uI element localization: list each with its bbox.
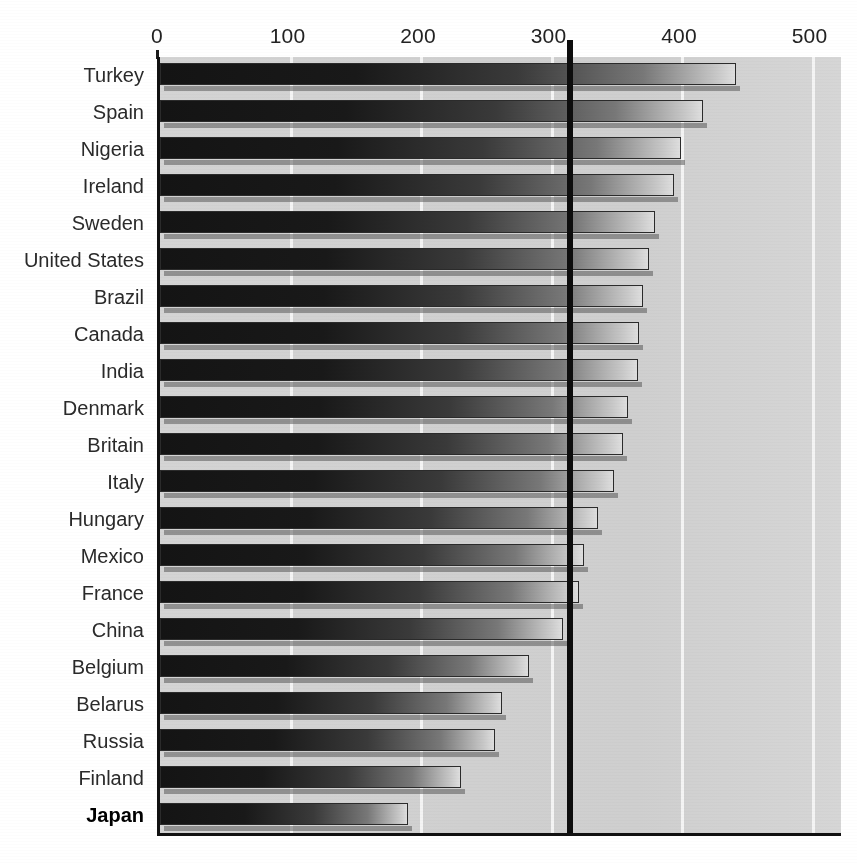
category-label-mexico: Mexico xyxy=(4,545,144,567)
x-tick-label-300: 300 xyxy=(531,24,567,48)
bar-chart: 0100200300400500 TurkeySpainNigeriaIrela… xyxy=(0,0,857,863)
bar-shadow xyxy=(164,567,588,572)
bar-shadow xyxy=(164,789,465,794)
bar-shadow xyxy=(164,530,602,535)
plot-area xyxy=(157,57,841,836)
bar-shadow xyxy=(164,641,567,646)
bar-shadow xyxy=(164,234,659,239)
category-label-china: China xyxy=(4,619,144,641)
category-label-belarus: Belarus xyxy=(4,693,144,715)
bar-shadow xyxy=(164,160,685,165)
bar-shadow xyxy=(164,123,707,128)
bar-shadow xyxy=(164,271,653,276)
category-label-russia: Russia xyxy=(4,730,144,752)
bar-finland[interactable] xyxy=(160,766,461,788)
category-label-nigeria: Nigeria xyxy=(4,138,144,160)
gridline-500 xyxy=(812,57,815,833)
gridline-400 xyxy=(681,57,684,833)
bar-china[interactable] xyxy=(160,618,563,640)
bar-denmark[interactable] xyxy=(160,396,628,418)
bar-united-states[interactable] xyxy=(160,248,649,270)
bar-russia[interactable] xyxy=(160,729,495,751)
bar-shadow xyxy=(164,419,632,424)
bar-japan[interactable] xyxy=(160,803,408,825)
bar-shadow xyxy=(164,715,506,720)
bar-shadow xyxy=(164,456,627,461)
x-tick-label-0: 0 xyxy=(151,24,163,48)
x-tick-label-200: 200 xyxy=(400,24,436,48)
bar-shadow xyxy=(164,86,740,91)
x-tick-label-100: 100 xyxy=(270,24,306,48)
bar-belarus[interactable] xyxy=(160,692,502,714)
category-label-japan: Japan xyxy=(4,804,144,826)
bar-nigeria[interactable] xyxy=(160,137,681,159)
category-label-brazil: Brazil xyxy=(4,286,144,308)
bar-shadow xyxy=(164,493,618,498)
bar-turkey[interactable] xyxy=(160,63,736,85)
category-label-canada: Canada xyxy=(4,323,144,345)
bar-shadow xyxy=(164,752,499,757)
x-tick-label-500: 500 xyxy=(792,24,828,48)
category-label-finland: Finland xyxy=(4,767,144,789)
bar-hungary[interactable] xyxy=(160,507,598,529)
category-label-turkey: Turkey xyxy=(4,64,144,86)
bar-italy[interactable] xyxy=(160,470,614,492)
category-label-india: India xyxy=(4,360,144,382)
x-tick-label-400: 400 xyxy=(661,24,697,48)
category-label-britain: Britain xyxy=(4,434,144,456)
bar-shadow xyxy=(164,604,583,609)
bar-belgium[interactable] xyxy=(160,655,529,677)
category-label-belgium: Belgium xyxy=(4,656,144,678)
bar-sweden[interactable] xyxy=(160,211,655,233)
category-label-denmark: Denmark xyxy=(4,397,144,419)
bar-mexico[interactable] xyxy=(160,544,584,566)
category-label-italy: Italy xyxy=(4,471,144,493)
bar-shadow xyxy=(164,678,533,683)
category-label-spain: Spain xyxy=(4,101,144,123)
category-label-france: France xyxy=(4,582,144,604)
category-label-ireland: Ireland xyxy=(4,175,144,197)
bar-shadow xyxy=(164,197,678,202)
bar-shadow xyxy=(164,826,412,831)
bar-france[interactable] xyxy=(160,581,579,603)
bar-shadow xyxy=(164,308,647,313)
bar-ireland[interactable] xyxy=(160,174,674,196)
category-label-sweden: Sweden xyxy=(4,212,144,234)
category-label-hungary: Hungary xyxy=(4,508,144,530)
bar-spain[interactable] xyxy=(160,100,703,122)
bar-britain[interactable] xyxy=(160,433,623,455)
reference-line xyxy=(567,40,573,833)
category-label-united-states: United States xyxy=(4,249,144,271)
